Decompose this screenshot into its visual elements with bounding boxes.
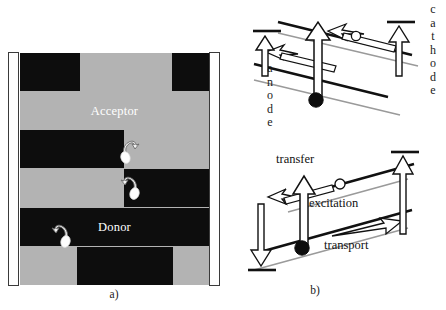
electrode-label-letter: t bbox=[426, 30, 440, 44]
electrode-label-letter: e bbox=[426, 84, 440, 98]
exciton-dissociation-symbol-2 bbox=[117, 171, 143, 201]
electrode-label-letter: a bbox=[263, 62, 277, 76]
stripe-row-1 bbox=[20, 53, 209, 91]
excitation-transfer-transport-diagram: transfer excitation transport bbox=[236, 142, 446, 282]
exciton-ellipse bbox=[128, 186, 140, 200]
hole-circle-upper bbox=[351, 31, 360, 40]
panel-b-caption: b) bbox=[240, 284, 390, 296]
cathode-label: cathode bbox=[426, 3, 440, 98]
electrode-label-letter: o bbox=[426, 57, 440, 71]
electron-dot-b bbox=[295, 241, 309, 255]
anode-label: anode bbox=[263, 62, 277, 130]
hole-transport-shaft-lower bbox=[280, 53, 336, 72]
stripe-row-6 bbox=[20, 247, 209, 285]
electrode-label-letter: a bbox=[426, 17, 440, 31]
electron-dot-center bbox=[309, 93, 323, 107]
electrode-label-letter: d bbox=[426, 71, 440, 85]
stripe-row-4 bbox=[20, 169, 209, 207]
exciton-ellipse bbox=[59, 234, 71, 248]
donor-segment-6-2 bbox=[77, 247, 173, 285]
charge-separation-at-interface-diagram: anode cathode bbox=[236, 0, 446, 142]
electrode-label-letter: c bbox=[426, 3, 440, 17]
panel-b-energy-diagrams: anode cathode bbox=[236, 0, 446, 282]
figure-root: AcceptorDonor a) bbox=[0, 0, 446, 310]
donor-segment-1-3 bbox=[172, 53, 209, 91]
acceptor-segment-1-2 bbox=[80, 53, 172, 91]
transfer-label: transfer bbox=[276, 152, 314, 167]
acceptor-segment-4-1 bbox=[20, 169, 124, 207]
excitation-label: excitation bbox=[309, 196, 358, 211]
acceptor-material-label: Acceptor bbox=[20, 105, 209, 118]
exciton-ellipse bbox=[119, 150, 131, 164]
electrode-label-letter: e bbox=[263, 116, 277, 130]
hole-circle-upper-b bbox=[335, 179, 345, 189]
exciton-dissociation-symbol-3 bbox=[48, 219, 74, 249]
donor-segment-3-1 bbox=[20, 130, 124, 168]
anode-arrow-b bbox=[251, 204, 271, 266]
acceptor-segment-6-1 bbox=[20, 247, 77, 285]
donor-acceptor-stripe-stack: AcceptorDonor bbox=[20, 53, 209, 285]
panel-a-caption: a) bbox=[8, 288, 220, 300]
exciton-dissociation-symbol-1 bbox=[117, 135, 143, 165]
stripe-row-3 bbox=[20, 130, 209, 168]
anode-electrode-bar bbox=[8, 52, 19, 286]
panel-a-device-morphology: AcceptorDonor bbox=[8, 52, 220, 286]
donor-segment-1-1 bbox=[20, 53, 80, 91]
stripe-row-2: Acceptor bbox=[20, 92, 209, 129]
transport-label: transport bbox=[324, 238, 368, 253]
electrode-label-letter: h bbox=[426, 44, 440, 58]
cathode-electrode-bar bbox=[209, 52, 220, 286]
electrode-label-letter: o bbox=[263, 89, 277, 103]
electrode-label-letter: d bbox=[263, 103, 277, 117]
electrode-label-letter: n bbox=[263, 76, 277, 90]
acceptor-segment-6-3 bbox=[173, 247, 209, 285]
